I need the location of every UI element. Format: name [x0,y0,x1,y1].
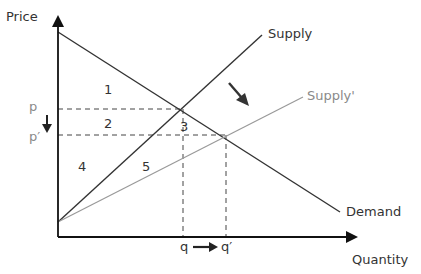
region-4-label: 4 [78,160,86,173]
region-1-label: 1 [104,83,112,96]
supply-prime-label: Supply' [307,89,355,102]
quantity-q-label: q [180,240,188,253]
quantity-right-arrow-icon [209,242,218,252]
price-p-prime-label: p′ [29,130,40,143]
x-axis-label: Quantity [352,253,408,266]
diagram-canvas [0,0,421,274]
price-down-arrow-icon [42,124,52,133]
supply-prime-curve [58,97,303,222]
demand-label: Demand [346,205,401,218]
supply-demand-diagram: Price Quantity Supply Supply' Demand p p… [0,0,421,274]
y-axis-label: Price [6,10,38,23]
quantity-q-prime-label: q′ [221,240,232,253]
region-5-label: 5 [142,160,150,173]
y-axis-arrow-icon [52,15,64,27]
region-3-label: 3 [180,120,188,133]
supply-curve [58,35,262,222]
region-2-label: 2 [104,117,112,130]
price-p-label: p [29,100,37,113]
x-axis-arrow-icon [346,231,358,243]
demand-curve [58,32,340,212]
supply-label: Supply [268,27,312,40]
